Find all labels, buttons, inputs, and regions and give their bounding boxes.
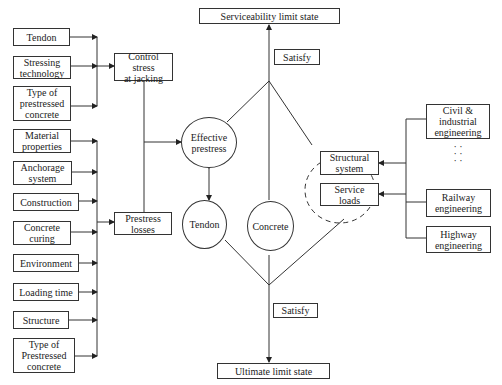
satisfy-label-bottom: Satisfy bbox=[273, 303, 318, 318]
factor-tendon: Tendon bbox=[13, 28, 70, 46]
ultimate-limit-state: Ultimate limit state bbox=[217, 363, 330, 379]
ellipsis-dots: · · · · · · bbox=[453, 143, 463, 164]
prestress-losses: Prestress losses bbox=[114, 212, 172, 235]
factor-concrete-curing: Concrete curing bbox=[13, 221, 71, 245]
factor-type-prestressed-concrete: Type of prestressed concrete bbox=[13, 86, 71, 121]
factor-material-properties: Material properties bbox=[13, 129, 71, 153]
railway-engineering: Railway engineering bbox=[426, 189, 491, 217]
civil-industrial-engineering: Civil & industrial engineering bbox=[426, 104, 490, 139]
service-loads: Service loads bbox=[320, 183, 379, 206]
node-effective-prestress: Effective prestress bbox=[181, 117, 237, 168]
factor-construction: Construction bbox=[13, 193, 79, 211]
factor-anchorage-system: Anchorage system bbox=[13, 161, 72, 185]
factor-environment: Environment bbox=[13, 254, 79, 272]
factor-stressing-technology: Stressing technology bbox=[13, 56, 71, 79]
node-tendon: Tendon bbox=[182, 200, 227, 249]
factor-structure: Structure bbox=[13, 311, 69, 329]
structural-system: Structural system bbox=[320, 151, 379, 175]
factor-type-prestressed-concrete-2: Type of Prestressed concrete bbox=[13, 338, 75, 373]
serviceability-limit-state: Serviceability limit state bbox=[199, 8, 340, 24]
control-stress-at-jacking: Control stress at jacking bbox=[114, 53, 173, 81]
node-concrete: Concrete bbox=[247, 201, 294, 251]
highway-engineering: Highway engineering bbox=[426, 226, 491, 253]
factor-loading-time: Loading time bbox=[13, 283, 79, 301]
satisfy-label-top: Satisfy bbox=[274, 49, 320, 65]
